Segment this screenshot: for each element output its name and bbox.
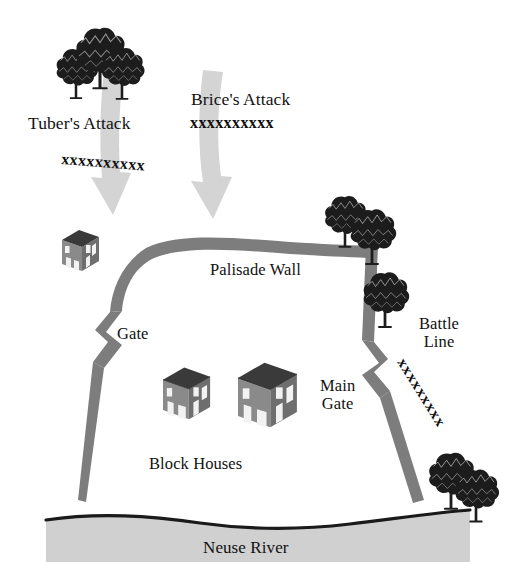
tree-cluster-northwest (57, 28, 145, 99)
label-gate: Gate (117, 325, 149, 343)
label-battle-line: Battle Line (419, 315, 459, 352)
label-block-houses: Block Houses (149, 455, 242, 473)
label-tubers-attack: Tuber's Attack (28, 114, 131, 134)
label-main-gate: Main Gate (320, 377, 355, 414)
label-palisade-wall: Palisade Wall (210, 261, 301, 279)
outpost-house (62, 230, 99, 271)
map-graphics (0, 0, 506, 562)
block-house-left (163, 368, 210, 420)
label-brices-attack: Brice's Attack (191, 90, 290, 110)
troop-marks-brices: xxxxxxxxxx (190, 114, 274, 132)
block-house-right (238, 363, 297, 428)
label-neuse-river: Neuse River (203, 538, 289, 557)
battle-map-figure: Tuber's Attack xxxxxxxxxx Brice's Attack… (0, 0, 506, 562)
